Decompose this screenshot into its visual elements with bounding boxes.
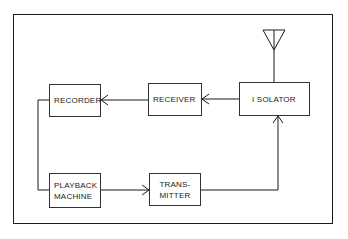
block-label-line-1: PLAYBACK (54, 180, 97, 191)
arrow-receiver-to-recorder (101, 95, 148, 105)
block-recorder: RECORDER (49, 84, 101, 117)
block-playback-machine: PLAYBACK MACHINE (49, 173, 101, 208)
block-label: RECORDER (54, 95, 101, 106)
block-label-line-2: MITTER (160, 190, 191, 201)
block-receiver: RECEIVER (148, 83, 202, 116)
block-transmitter: TRANS- MITTER (149, 173, 201, 206)
block-label-line-2: MACHINE (54, 191, 92, 202)
block-diagram: RECORDER RECEIVER I SOLATOR PLAYBACK MAC… (0, 0, 348, 239)
arrow-isolator-to-receiver (202, 94, 239, 104)
block-label-line-1: TRANS- (160, 179, 191, 190)
block-isolator: I SOLATOR (239, 82, 310, 116)
block-label: RECEIVER (153, 94, 196, 105)
antenna-icon (263, 30, 285, 82)
block-label: I SOLATOR (252, 94, 296, 105)
arrow-transmitter-to-isolator (201, 116, 283, 190)
arrow-playback-to-transmitter (101, 185, 149, 195)
